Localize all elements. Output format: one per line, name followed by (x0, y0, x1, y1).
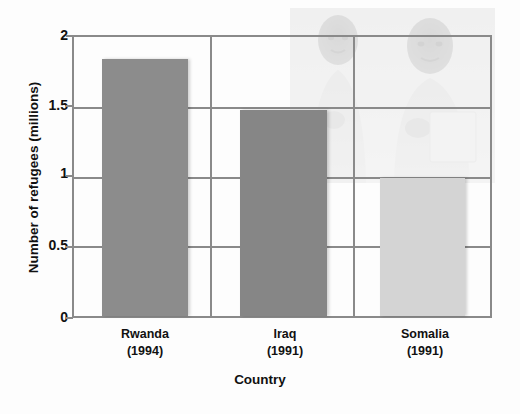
x-tick-iraq-name: Iraq (274, 327, 297, 341)
x-tick-rwanda: Rwanda (1994) (75, 326, 215, 360)
y-axis-title: Number of refugees (millions) (26, 58, 41, 298)
y-tick-label-0: 0 (28, 310, 68, 324)
category-separator-2 (353, 37, 355, 316)
x-tick-iraq-year: (1991) (215, 343, 355, 360)
category-separator-1 (210, 37, 212, 316)
x-tick-somalia-name: Somalia (401, 327, 449, 341)
bar-rwanda[interactable] (102, 59, 188, 316)
x-tick-iraq: Iraq (1991) (215, 326, 355, 360)
bar-iraq[interactable] (240, 110, 327, 316)
x-tick-somalia-year: (1991) (355, 343, 495, 360)
x-tick-rwanda-name: Rwanda (121, 327, 169, 341)
bar-somalia[interactable] (380, 178, 465, 316)
x-axis-title: Country (0, 372, 520, 387)
chart-page: 2 1.5 1 0.5 0 Number of refugees (millio… (0, 0, 520, 414)
plot-area (72, 35, 492, 318)
x-tick-somalia: Somalia (1991) (355, 326, 495, 360)
y-tick-label-2: 2 (28, 28, 68, 42)
x-tick-rwanda-year: (1994) (75, 343, 215, 360)
